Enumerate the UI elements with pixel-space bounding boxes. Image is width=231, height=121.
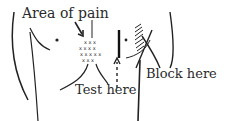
right-nipple-icon	[125, 39, 128, 42]
block-line-lower	[138, 60, 140, 121]
left-nipple-icon	[55, 38, 58, 41]
right-body-outline	[170, 12, 173, 68]
left-body-outline	[12, 12, 28, 100]
test-here-label: Test here	[75, 83, 136, 96]
left-flank-line	[30, 32, 38, 121]
left-chest-curve	[30, 28, 50, 50]
lower-chest-right-curve	[96, 64, 108, 84]
block-cross-line-b	[142, 36, 160, 68]
svg-text:x x x: x x x	[82, 57, 94, 63]
pain-area-marks: x x x x x x x x x x x x x x x	[79, 39, 101, 63]
block-here-label: Block here	[146, 67, 217, 80]
area-of-pain-label: Area of pain	[22, 6, 109, 20]
pain-arrow	[75, 22, 82, 34]
